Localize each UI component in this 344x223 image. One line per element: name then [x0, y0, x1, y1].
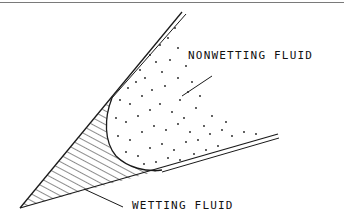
nonwetting-leader-line	[182, 76, 212, 96]
nonwetting-fluid-region	[115, 27, 257, 165]
wetting-fluid-label: WETTING FLUID	[132, 199, 234, 212]
wetting-fluid-region	[20, 98, 162, 208]
wedge-diagram	[0, 0, 344, 223]
wetting-leader-line	[84, 189, 123, 207]
nonwetting-fluid-label: NONWETTING FLUID	[188, 49, 313, 62]
